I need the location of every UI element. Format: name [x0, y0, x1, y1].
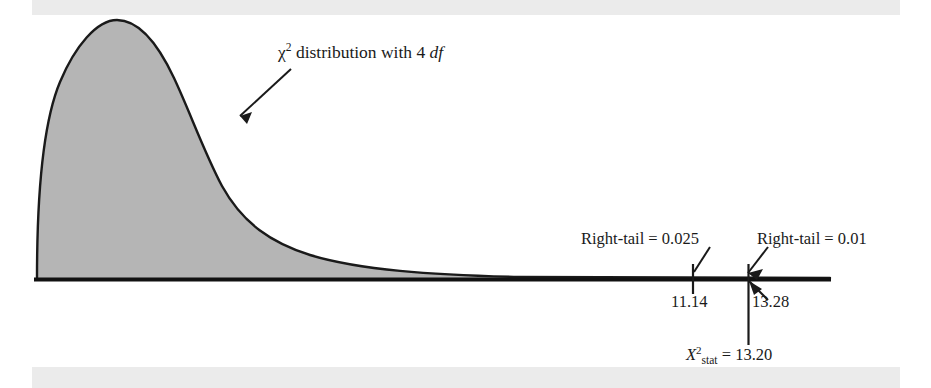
test-statistic-value: 13.20: [735, 345, 772, 364]
annotation-test-statistic: X2stat = 13.20: [686, 347, 772, 364]
df-italic: df: [430, 42, 444, 62]
x-subscript: stat: [702, 354, 718, 366]
x-symbol: X: [686, 345, 696, 364]
curve-label-chi-square-distribution: χ2 distribution with 4 df: [278, 44, 443, 62]
distribution-plot: [0, 0, 931, 388]
x-tick-label-11-14: 11.14: [671, 294, 708, 311]
chi-square-distribution-figure: χ2 distribution with 4 df Right-tail = 0…: [0, 0, 931, 388]
x-tick-label-13-28: 13.28: [752, 294, 789, 311]
chi-symbol: χ: [278, 42, 286, 62]
annotation-right-tail-0025: Right-tail = 0.025: [581, 231, 699, 248]
annotation-right-tail-001: Right-tail = 0.01: [757, 231, 867, 248]
leader-line-right-tail-0025: [694, 247, 710, 272]
curve-label-text: distribution with 4: [292, 42, 430, 62]
leader-line-right-tail-001: [748, 247, 768, 280]
curve-label-arrow: [240, 69, 291, 124]
equals-sign: =: [718, 345, 736, 364]
